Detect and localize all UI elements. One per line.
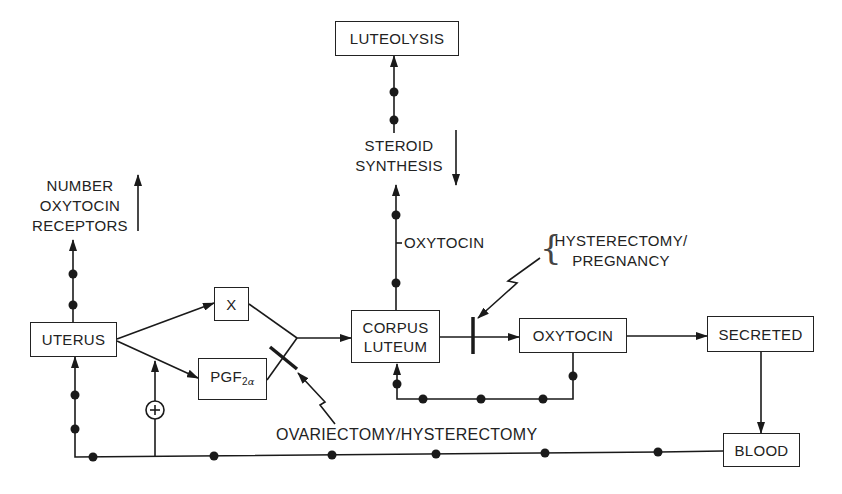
corpus-luteum-node: CORPUS LUTEUM bbox=[351, 310, 440, 363]
secreted-label: SECRETED bbox=[718, 325, 802, 344]
pgf2a-node: PGF2α bbox=[198, 358, 267, 400]
luteolysis-label: LUTEOLYSIS bbox=[350, 29, 444, 48]
ovariectomy-hysterectomy-label: OVARIECTOMY/HYSTERECTOMY bbox=[276, 425, 537, 445]
oxytocin-node: OXYTOCIN bbox=[519, 318, 627, 353]
hysterectomy-pregnancy-label: HYSTERECTOMY/ PREGNANCY bbox=[551, 231, 691, 271]
oxytocin-pathway-label: OXYTOCIN bbox=[404, 233, 484, 253]
pgf2a-label: PGF2α bbox=[210, 367, 255, 391]
steroid-synthesis-label: STEROID SYNTHESIS bbox=[352, 136, 446, 176]
corpus-label-line2: LUTEUM bbox=[364, 337, 427, 356]
x-label: X bbox=[226, 295, 236, 314]
corpus-label-line1: CORPUS bbox=[363, 318, 429, 337]
blood-node: BLOOD bbox=[723, 433, 800, 467]
luteolysis-node: LUTEOLYSIS bbox=[335, 21, 459, 56]
x-node: X bbox=[214, 287, 249, 321]
ovariectomy-block-bar bbox=[270, 347, 297, 369]
x-to-junction-edge bbox=[249, 304, 297, 338]
uterus-to-x-edge bbox=[117, 303, 214, 339]
uterus-node: UTERUS bbox=[30, 322, 117, 357]
blood-label: BLOOD bbox=[734, 441, 788, 460]
uterus-to-pgf-edge bbox=[117, 341, 198, 378]
uterus-label: UTERUS bbox=[42, 330, 105, 349]
hysterectomy-lightning-icon bbox=[478, 258, 540, 318]
secreted-node: SECRETED bbox=[707, 316, 814, 352]
ovariectomy-lightning-icon bbox=[298, 373, 335, 424]
oxytocin-node-label: OXYTOCIN bbox=[533, 326, 613, 345]
oxytocin-receptors-label: NUMBER OXYTOCIN RECEPTORS bbox=[24, 176, 136, 236]
